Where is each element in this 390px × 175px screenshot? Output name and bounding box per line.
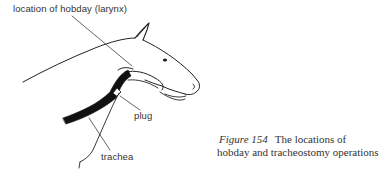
- figure-154: location of hobday (larynx) plug trachea…: [0, 0, 390, 175]
- larynx-outline: [118, 68, 133, 70]
- mouth-line: [145, 80, 185, 94]
- caption-line-2: hobday and tracheostomy operations: [217, 146, 379, 159]
- neck-crest-line: [23, 38, 135, 82]
- caption-line-1: Figure 154The locations of: [219, 133, 379, 146]
- figure-caption: Figure 154The locations of hobday and tr…: [219, 133, 379, 159]
- trachea-leader-line: [89, 118, 110, 150]
- eye-icon: [163, 58, 167, 61]
- plug-leader-line: [120, 96, 140, 110]
- hobday-leader-line: [72, 16, 132, 66]
- plug-label: plug: [134, 110, 152, 121]
- trachea-label: trachea: [101, 151, 133, 162]
- muzzle-outline: [185, 80, 200, 95]
- trachea-band: [63, 70, 131, 124]
- caption-text-1: The locations of: [275, 133, 346, 145]
- hobday-location-label: location of hobday (larynx): [13, 3, 127, 14]
- figure-number: Figure 154: [219, 133, 268, 145]
- face-profile-line: [143, 40, 197, 80]
